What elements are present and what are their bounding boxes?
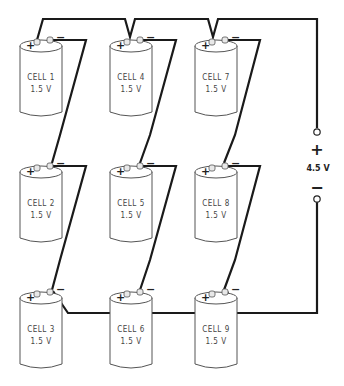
cell-7: +−CELL 71.5 V — [195, 31, 240, 116]
cell-voltage: 1.5 V — [30, 85, 51, 94]
negative-sign: − — [146, 157, 155, 170]
cell-2: +−CELL 21.5 V — [20, 157, 65, 242]
output-plus-terminal — [314, 129, 320, 135]
cell-1: +−CELL 11.5 V — [20, 31, 65, 116]
output-minus-terminal — [314, 196, 320, 202]
cell-label: CELL 7 — [202, 73, 229, 82]
cell-5: +−CELL 51.5 V — [110, 157, 155, 242]
positive-sign: + — [201, 39, 210, 52]
cell-voltage: 1.5 V — [205, 211, 226, 220]
positive-sign: + — [116, 39, 125, 52]
bottom-bus-wire — [53, 200, 317, 313]
negative-sign: − — [146, 283, 155, 296]
cell-negative-terminal — [222, 289, 228, 295]
cell-negative-terminal — [47, 289, 53, 295]
cell-negative-terminal — [47, 163, 53, 169]
negative-sign: − — [231, 283, 240, 296]
cell-negative-terminal — [137, 289, 143, 295]
cell-negative-terminal — [222, 37, 228, 43]
cell-label: CELL 5 — [117, 199, 144, 208]
positive-sign: + — [26, 291, 35, 304]
cell-negative-terminal — [137, 37, 143, 43]
negative-sign: − — [56, 283, 65, 296]
cell-negative-terminal — [47, 37, 53, 43]
output-minus-sign: − — [310, 178, 323, 197]
output-terminals: + 4.5 V − — [306, 129, 330, 202]
cell-label: CELL 4 — [117, 73, 144, 82]
cell-label: CELL 9 — [202, 325, 229, 334]
cell-voltage: 1.5 V — [205, 85, 226, 94]
cell-voltage: 1.5 V — [30, 211, 51, 220]
cell-voltage: 1.5 V — [120, 337, 141, 346]
negative-sign: − — [231, 157, 240, 170]
cells-group: +−CELL 11.5 V+−CELL 21.5 V+−CELL 31.5 V+… — [20, 31, 240, 368]
cell-voltage: 1.5 V — [30, 337, 51, 346]
cell-8: +−CELL 81.5 V — [195, 157, 240, 242]
cell-label: CELL 8 — [202, 199, 229, 208]
positive-sign: + — [201, 291, 210, 304]
cell-label: CELL 1 — [27, 73, 54, 82]
negative-sign: − — [146, 31, 155, 44]
cell-negative-terminal — [222, 163, 228, 169]
positive-sign: + — [26, 39, 35, 52]
battery-diagram: +−CELL 11.5 V+−CELL 21.5 V+−CELL 31.5 V+… — [0, 0, 344, 386]
positive-sign: + — [26, 165, 35, 178]
cell-6: +−CELL 61.5 V — [110, 283, 155, 368]
cell-label: CELL 2 — [27, 199, 54, 208]
positive-sign: + — [201, 165, 210, 178]
cell-label: CELL 6 — [117, 325, 144, 334]
positive-sign: + — [116, 165, 125, 178]
output-plus-sign: + — [310, 140, 323, 159]
cell-3: +−CELL 31.5 V — [20, 283, 65, 368]
negative-sign: − — [231, 31, 240, 44]
negative-sign: − — [56, 157, 65, 170]
top-bus-wire — [37, 19, 317, 128]
cell-voltage: 1.5 V — [120, 211, 141, 220]
output-voltage-label: 4.5 V — [306, 164, 330, 173]
negative-sign: − — [56, 31, 65, 44]
positive-sign: + — [116, 291, 125, 304]
cell-voltage: 1.5 V — [205, 337, 226, 346]
wiring — [37, 19, 317, 313]
cell-voltage: 1.5 V — [120, 85, 141, 94]
cell-9: +−CELL 91.5 V — [195, 283, 240, 368]
cell-4: +−CELL 41.5 V — [110, 31, 155, 116]
cell-negative-terminal — [137, 163, 143, 169]
cell-label: CELL 3 — [27, 325, 54, 334]
